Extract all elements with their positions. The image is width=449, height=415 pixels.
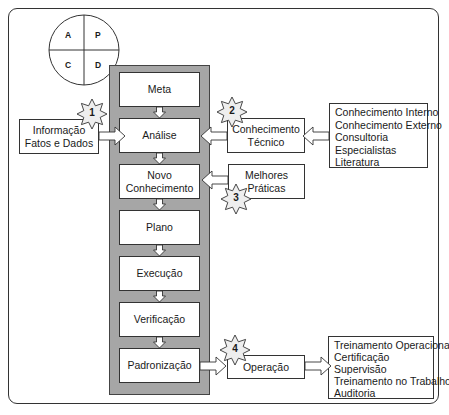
down-arrow-icon: [154, 337, 166, 348]
badge-1: 1: [85, 107, 99, 118]
right-arrow-icon: [200, 357, 226, 375]
right-arrow-icon: [99, 127, 125, 145]
left-arrow-icon: [201, 127, 227, 145]
left-arrow-icon: [202, 171, 228, 189]
down-arrow-icon: [154, 153, 166, 164]
down-arrow-icon: [154, 291, 166, 302]
right-arrow-icon: [305, 357, 331, 375]
down-arrow-icon: [154, 107, 166, 118]
badge-3: 3: [229, 192, 243, 203]
arrows-layer: [0, 0, 449, 415]
down-arrow-icon: [154, 199, 166, 210]
left-arrow-icon: [303, 127, 329, 145]
badge-2: 2: [225, 105, 239, 116]
down-arrow-icon: [154, 245, 166, 256]
badge-4: 4: [228, 343, 242, 354]
